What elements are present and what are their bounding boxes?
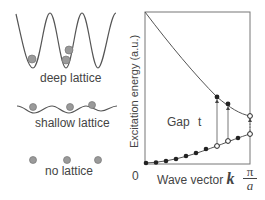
x-end-denominator: a (243, 179, 257, 193)
y-axis-label: Excitation energy (a.u.) (128, 35, 140, 148)
deep-lattice-label: deep lattice (40, 71, 101, 85)
particle (67, 104, 74, 111)
particle (95, 157, 102, 164)
particle (62, 56, 70, 64)
upper-dot-filled (226, 102, 231, 107)
x-axis-label: Wave vector k (157, 170, 235, 188)
particle (28, 55, 36, 63)
particle (30, 104, 37, 111)
x-axis-text: Wave vector (157, 173, 223, 187)
lower-band-curve (145, 134, 250, 163)
lower-band-dots (144, 132, 253, 166)
particle (89, 102, 96, 109)
x-origin-label: 0 (132, 169, 139, 183)
gap-symbol: t (198, 115, 201, 129)
gap-label: Gap (167, 115, 190, 129)
shallow-lattice-label: shallow lattice (35, 116, 110, 130)
particle (30, 157, 37, 164)
particle (64, 157, 71, 164)
x-end-label: π a (243, 165, 257, 193)
upper-dot-filled (215, 95, 220, 100)
upper-band-curve (145, 12, 250, 116)
plot-frame (145, 12, 250, 164)
particle (65, 46, 73, 54)
x-end-numerator: π (243, 165, 257, 179)
upper-dot-open (248, 114, 253, 119)
x-axis-variable: k (227, 170, 235, 187)
no-lattice-label: no lattice (45, 164, 93, 178)
